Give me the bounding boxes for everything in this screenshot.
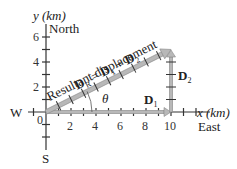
d2-label: D2 — [178, 68, 191, 85]
origin-label: 0 — [37, 113, 43, 127]
theta-label: θ — [102, 91, 109, 106]
east-label: East — [198, 119, 221, 134]
d1-label: D1 — [144, 92, 157, 109]
x-tick-4: 4 — [92, 119, 98, 133]
y-tick-2: 2 — [33, 80, 39, 94]
y-tick-6: 6 — [33, 30, 39, 44]
x-tick-8: 8 — [142, 119, 148, 133]
angle-arc — [87, 91, 92, 112]
north-label: North — [49, 21, 80, 36]
vector-addition-diagram: Resultant displacement DR = D1 + D2 θ D1… — [0, 0, 237, 169]
x-tick-6: 6 — [117, 119, 123, 133]
x-axis-label: x (km) — [196, 105, 230, 120]
x-tick-2: 2 — [67, 119, 73, 133]
south-label: S — [42, 151, 49, 166]
x-tick-10: 10 — [164, 119, 176, 133]
vector-d2 — [166, 50, 176, 112]
y-tick-4: 4 — [33, 55, 39, 69]
west-label: W — [10, 105, 23, 120]
